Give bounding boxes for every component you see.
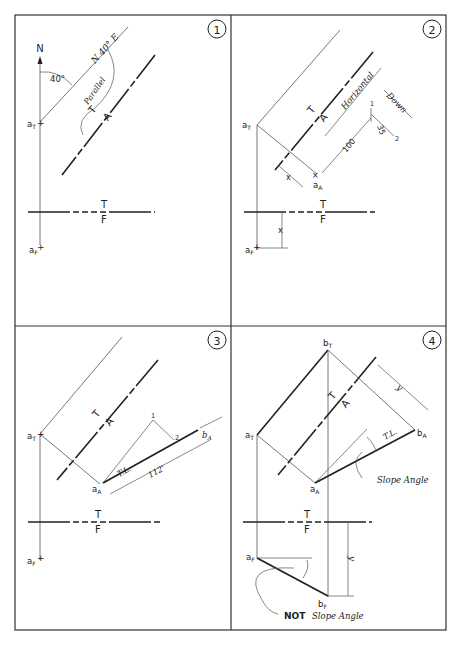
point-a-front: aF [27,556,36,567]
slope-rise-label: 1 [370,100,374,108]
panel-1: 1 N N 40° E 40° Parallel T A aT + T F aF… [27,20,226,256]
fold-label-aux: A [101,110,114,122]
point-a-aux: aA [310,484,320,495]
y-label-aux: y [394,381,405,392]
panel-number: 3 [214,335,221,348]
tf-top-label: T [94,509,102,520]
tf-top-label: T [303,509,311,520]
tf-front-label: F [304,524,310,535]
line-ab-top [257,350,328,435]
line-ab-front [257,558,328,596]
a-projector-aux [257,435,315,483]
point-a-aux: aA [313,180,323,191]
tf-front-label: F [101,214,107,225]
point-a-top: aT [245,430,254,441]
cross-mark: + [37,118,45,128]
point-a-front: aF [246,552,255,563]
slope-angle-arc [367,437,376,452]
fold-label-top: T [89,407,103,420]
fold-label-aux: A [103,415,116,427]
not-label: NOT [284,611,306,621]
cross-mark: + [37,242,45,252]
panel-3: 3 T A 1 2 T.L. 112' aA bA aT + T F aF + [27,331,226,567]
projector-to-aux [257,125,317,174]
down-label: Down [384,90,409,115]
fold-label-top: T [325,389,339,402]
not-slope-arc [303,560,308,578]
panel-number: 2 [429,24,436,37]
x-label-front: x [278,226,283,235]
slope-angle-label: Slope Angle [377,475,429,485]
parallel-label: Parallel [82,75,108,107]
point-1-label: 1 [151,412,155,420]
panel-number: 1 [214,24,221,37]
construction-line [153,420,174,440]
point-a-top: aT [27,431,36,442]
not-slope-label: Slope Angle [312,611,364,621]
fold-label-aux: A [317,111,330,123]
cross-mark: + [37,429,45,439]
fold-label-top: T [304,103,318,116]
projector-line [257,30,340,125]
hundred-label: 100 [341,137,358,154]
tf-top-label: T [319,199,327,210]
cross-mark: + [253,242,261,252]
panel-4: 4 T A y T.L. Slope Angle aT bT aA bA T F… [243,331,441,621]
cross-mark: + [37,553,45,563]
tf-front-label: F [320,214,326,225]
bearing-label: N 40° E [88,31,121,66]
fold-label-aux: A [339,397,352,409]
slope-run-label: 2 [395,135,399,143]
tf-top-label: T [100,199,108,210]
angle-label: 40° [50,74,65,84]
x-label-aux: x [286,173,291,182]
fold-line-ta [278,357,376,475]
point-a-top: aT [27,119,36,130]
north-label: N [36,43,43,54]
true-length-label: T.L. [116,464,133,479]
north-arrow-icon [38,56,43,64]
point-a-aux: aA [92,484,102,495]
panel-number: 4 [429,335,436,348]
tf-front-label: F [95,524,101,535]
point-b-aux: bA [417,428,427,439]
extension-line [200,417,222,428]
diagram-canvas: 1 N N 40° E 40° Parallel T A aT + T F aF… [0,0,463,646]
panel-2: 2 T A Horizontal Down 1 2 35 100 x × aA … [242,20,441,256]
construction-line [315,429,367,483]
point-b-aux: bA [202,430,212,441]
y-label-front: y [347,555,357,561]
point-b-front: bF [318,599,327,610]
length-label: 112' [147,464,167,480]
cross-mark: × [312,171,319,180]
projector-to-aux [40,434,100,484]
slope-value-label: 35 [375,124,387,137]
fold-line-ta [275,52,373,170]
slope-angle-leader [356,452,362,478]
point-a-top: aT [242,120,251,131]
point-b-top: bT [323,338,332,349]
